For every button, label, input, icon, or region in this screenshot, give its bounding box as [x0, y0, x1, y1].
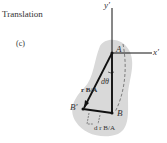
displacement-label: d r B/A: [94, 124, 115, 132]
y-axis-label: y′: [104, 0, 110, 10]
x-axis-label: x′: [153, 47, 159, 57]
angle-label: dθ: [101, 77, 109, 86]
position-vector-label: r B/A: [81, 86, 97, 94]
point-a-label: A: [116, 44, 122, 54]
diagram-canvas: [0, 0, 167, 143]
point-b-prime-label: B′: [70, 102, 77, 112]
point-b-label: B: [117, 108, 123, 118]
